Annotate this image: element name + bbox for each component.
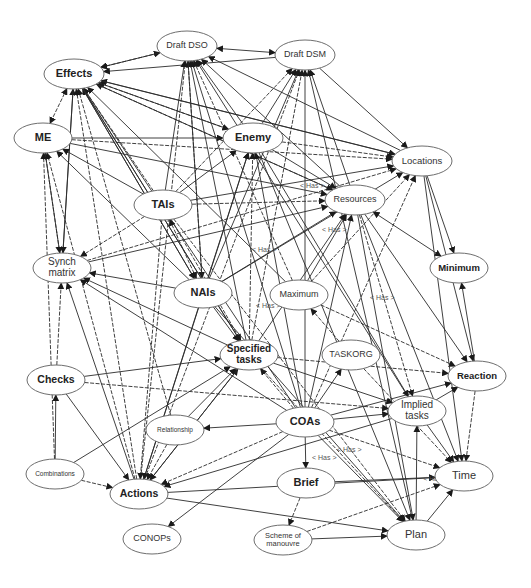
edge-resources-to-draft_dsm	[310, 70, 350, 185]
node-label: Draft DSM	[284, 49, 326, 59]
node-conops[interactable]: CONOPs	[123, 524, 181, 554]
node-label: Brief	[293, 476, 318, 488]
edge-locations-to-minimum	[427, 176, 454, 253]
node-draft-dsm[interactable]: Draft DSM	[275, 40, 335, 70]
edge-coas-to-resources	[308, 215, 351, 407]
edge-effects-to-me	[50, 89, 67, 124]
node-synch-matrix[interactable]: Synchmatrix	[33, 253, 91, 283]
node-label: Effects	[56, 67, 93, 79]
node-label: Implied	[401, 399, 433, 410]
node-label: Maximum	[279, 289, 318, 299]
node-label: tasks	[236, 354, 262, 365]
node-label: Synch	[48, 256, 76, 267]
edge-me-to-resources	[70, 143, 327, 194]
node-combinations[interactable]: Combinations	[26, 459, 84, 489]
node-label: Relationship	[157, 426, 193, 434]
edge-nais-to-specified_tasks	[213, 307, 238, 341]
node-label: TAIs	[151, 198, 174, 210]
edge-brief-to-time	[335, 477, 435, 481]
node-label: tasks	[405, 410, 428, 421]
node-label: ME	[35, 131, 52, 143]
edge-coas-to-brief	[305, 437, 306, 468]
node-brief[interactable]: Brief	[277, 468, 335, 498]
node-scheme-of-manouvre[interactable]: Scheme ofmanouvre	[254, 525, 312, 555]
node-resources[interactable]: Resources	[325, 185, 385, 215]
node-label: Draft DSO	[166, 40, 208, 50]
node-taskorg[interactable]: TASKORG	[322, 340, 380, 370]
edge-coas-to-relationship	[204, 424, 276, 428]
node-label: manouvre	[266, 539, 299, 548]
node-label: Locations	[402, 155, 443, 166]
edge-combinations-to-specified_tasks	[74, 367, 231, 463]
node-implied-tasks[interactable]: Impliedtasks	[388, 396, 446, 426]
diagram-canvas: < Has >< Has >< Has >< Has >< Has >< Has…	[0, 0, 531, 588]
edge-coas-to-specified_tasks	[261, 369, 294, 408]
node-specified-tasks[interactable]: Specifiedtasks	[220, 340, 278, 370]
node-label: Minimum	[438, 262, 480, 273]
node-me[interactable]: ME	[14, 123, 72, 153]
edge-nais-to-resources	[222, 212, 336, 282]
edge-draft_dso-to-draft_dsm	[217, 48, 276, 52]
edge-resources-to-minimum	[373, 212, 441, 256]
edge-combinations-to-me	[44, 153, 55, 459]
edge-label-has: < Has >	[322, 226, 347, 233]
node-coas[interactable]: COAs	[276, 407, 334, 437]
edge-effects-to-synch_matrix	[63, 89, 73, 253]
node-reaction[interactable]: Reaction	[448, 361, 506, 391]
edge-label-has: < Has >	[370, 294, 395, 301]
edge-label-has: < Has >	[252, 246, 277, 253]
node-time[interactable]: Time	[435, 461, 493, 491]
node-locations[interactable]: Locations	[392, 146, 452, 176]
node-label: CONOPs	[133, 533, 171, 543]
node-minimum[interactable]: Minimum	[430, 253, 488, 283]
node-label: TASKORG	[329, 349, 372, 359]
edge-label-has: < Has >	[312, 454, 337, 461]
edge-coas-to-conops	[168, 434, 289, 526]
edge-actions-to-me	[47, 153, 135, 479]
concept-map-diagram: < Has >< Has >< Has >< Has >< Has >< Has…	[0, 0, 531, 588]
node-label: Time	[452, 469, 476, 481]
node-label: Enemy	[235, 131, 272, 143]
node-draft-dso[interactable]: Draft DSO	[157, 31, 217, 61]
edge-synch_matrix-to-resources	[89, 206, 328, 262]
edge-labels-layer: < Has >< Has >< Has >< Has >< Has >< Has…	[252, 182, 448, 482]
node-label: Combinations	[35, 470, 75, 477]
edge-specified_tasks-to-plan	[262, 369, 404, 522]
edge-draft_dso-to-effects	[101, 53, 160, 68]
node-checks[interactable]: Checks	[27, 365, 85, 395]
edge-combinations-to-checks	[55, 395, 56, 459]
edge-implied_tasks-to-reaction	[436, 387, 458, 400]
edge-label-has: < Has >	[337, 446, 362, 453]
edge-tais-to-synch_matrix	[81, 217, 145, 257]
edge-plan-to-implied_tasks	[416, 426, 417, 520]
edge-tais-to-draft_dso	[165, 61, 184, 190]
node-label: Resources	[333, 194, 377, 204]
node-label: Actions	[120, 487, 159, 499]
node-label: Specified	[227, 343, 271, 354]
edge-coas-to-implied_tasks	[334, 414, 389, 419]
node-label: Checks	[37, 373, 75, 385]
node-label: Plan	[405, 528, 427, 540]
node-nais[interactable]: NAIs	[174, 278, 232, 308]
edge-reaction-to-time	[466, 391, 475, 461]
node-label: COAs	[290, 415, 321, 427]
node-label: matrix	[48, 267, 75, 278]
node-actions[interactable]: Actions	[110, 479, 168, 509]
node-plan[interactable]: Plan	[387, 520, 445, 550]
edge-relationship-to-specified_tasks	[188, 368, 236, 416]
node-relationship[interactable]: Relationship	[146, 415, 204, 445]
edge-brief-to-scheme_of_manouvre	[289, 498, 300, 526]
node-maximum[interactable]: Maximum	[270, 280, 328, 310]
node-tais[interactable]: TAIs	[134, 190, 192, 220]
node-enemy[interactable]: Enemy	[223, 123, 283, 153]
edge-checks-to-synch_matrix	[57, 283, 61, 365]
node-effects[interactable]: Effects	[44, 59, 104, 89]
edge-tais-to-enemy	[180, 151, 237, 193]
node-label: Reaction	[457, 370, 497, 381]
edge-specified_tasks-to-implied_tasks	[273, 363, 392, 403]
edges-layer	[44, 48, 476, 539]
edge-combinations-to-actions	[81, 480, 112, 487]
node-label: NAIs	[190, 286, 215, 298]
edge-coas-to-taskorg	[315, 369, 342, 408]
edge-plan-to-time	[427, 490, 453, 521]
